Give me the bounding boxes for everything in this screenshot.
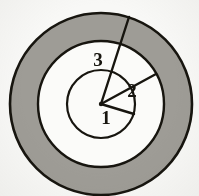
center-point [99,102,103,106]
figure-canvas: 1 2 3 [0,0,199,196]
radius-label-3: 3 [93,49,103,70]
radius-label-1: 1 [101,107,111,128]
radius-label-2: 2 [127,80,137,101]
concentric-circles-figure: 1 2 3 [0,0,199,196]
